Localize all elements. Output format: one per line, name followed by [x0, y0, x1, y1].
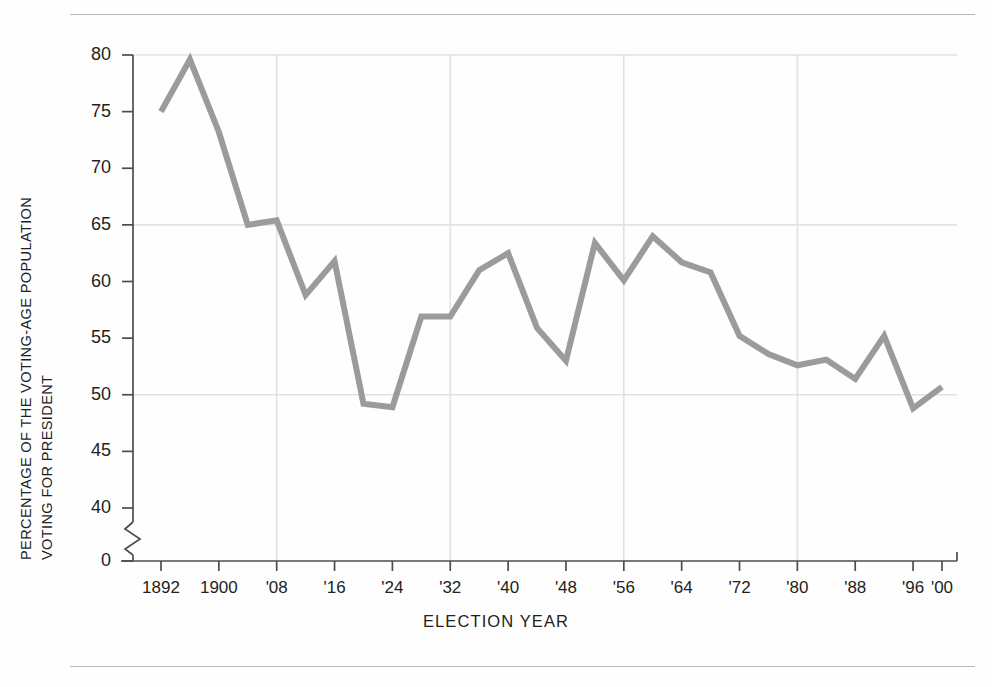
y-tick-label: 45 [75, 440, 111, 461]
data-line-turnout [161, 60, 942, 409]
y-tick-label: 70 [75, 157, 111, 178]
x-tick-label: 1900 [189, 578, 249, 598]
y-tick-label: 75 [75, 101, 111, 122]
x-tick-label: '56 [594, 578, 654, 598]
axes-group [121, 55, 957, 561]
x-tick-label: 1892 [131, 578, 191, 598]
x-tick-label: '88 [825, 578, 885, 598]
x-tick-label: '72 [710, 578, 770, 598]
data-series-group [161, 60, 942, 409]
y-tick-label: 40 [75, 497, 111, 518]
y-tick-label: 80 [75, 44, 111, 65]
x-tick-label: '24 [362, 578, 422, 598]
x-tick-label: '48 [536, 578, 596, 598]
y-axis-break-symbol [125, 522, 140, 555]
x-tick-label: '08 [247, 578, 307, 598]
y-tick-label: 60 [75, 271, 111, 292]
y-tick-label: 50 [75, 384, 111, 405]
gridlines-group [133, 55, 957, 561]
x-tick-label: '80 [767, 578, 827, 598]
x-tick-label: '40 [478, 578, 538, 598]
y-tick-label: 0 [75, 550, 111, 571]
x-tick-label: '00 [912, 578, 972, 598]
figure-page: PERCENTAGE OF THE VOTING-AGE POPULATION … [0, 0, 992, 687]
y-tick-label: 65 [75, 214, 111, 235]
x-tick-label: '16 [305, 578, 365, 598]
y-tick-label: 55 [75, 327, 111, 348]
x-tick-label: '64 [652, 578, 712, 598]
x-tick-label: '32 [420, 578, 480, 598]
x-axis-title: ELECTION YEAR [0, 612, 992, 631]
